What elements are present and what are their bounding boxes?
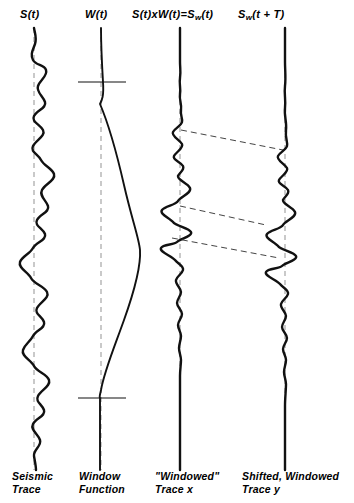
caption-seismic-line2: Trace (12, 483, 41, 495)
panel-caption-shifted-trace: Shifted, Windowed Trace y (242, 470, 339, 496)
panel-caption-windowed-trace: "Windowed" Trace x (155, 470, 219, 496)
window-tick-group (78, 82, 126, 398)
caption-shifted-line2: Trace y (242, 483, 280, 495)
waveform-windowed-trace-x (161, 28, 191, 470)
seismic-window-figure: S(t) W(t) S(t)xW(t)=Sw(t) Sw(t + T) (0, 0, 354, 503)
correlation-lines-group (172, 130, 283, 258)
caption-seismic-line1: Seismic (12, 470, 53, 482)
correlation-line-1 (181, 130, 283, 150)
traces-canvas (0, 0, 354, 503)
caption-windowed-line1: "Windowed" (155, 470, 219, 482)
panel-caption-seismic-trace: Seismic Trace (12, 470, 53, 496)
correlation-line-3 (172, 238, 279, 258)
caption-shifted-line1: Shifted, Windowed (242, 470, 339, 482)
waveform-seismic-trace (20, 28, 55, 470)
caption-window-line1: Window (79, 470, 120, 482)
waveform-shifted-windowed-trace-y (266, 28, 296, 470)
caption-window-line2: Function (79, 483, 125, 495)
caption-windowed-line2: Trace x (155, 483, 193, 495)
axis-group (34, 28, 285, 470)
panel-caption-window-function: Window Function (79, 470, 125, 496)
waveform-window-function (100, 28, 141, 470)
correlation-line-2 (180, 206, 266, 225)
